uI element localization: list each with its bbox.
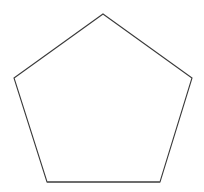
pentagon-svg [0,0,204,192]
drawing-canvas [0,0,204,192]
